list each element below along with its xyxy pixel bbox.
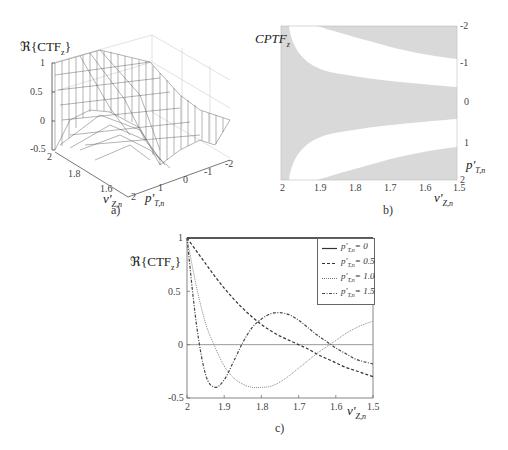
legend-item: p'T,n= 1.5 (322, 286, 374, 300)
legend-item: p'T,n= 0 (322, 241, 374, 255)
panel-c-caption: c) (275, 421, 284, 436)
panel-c-ytick: 0.5 (168, 286, 181, 297)
panel-c-xtick: 1.7 (293, 401, 306, 412)
panel-c-xtick: 2 (185, 401, 190, 412)
legend-item: p'T,n= 1.0 (322, 271, 374, 285)
panel-c-xtick: 1.5 (367, 401, 380, 412)
chart-legend: p'T,n= 0 p'T,n= 0.5 p'T,n= 1.0 p'T,n= 1.… (317, 238, 375, 305)
panel-c-xtick: 1.6 (330, 401, 343, 412)
panel-c-ytick: 0 (178, 339, 183, 350)
panel-c-ytick: -0.5 (168, 392, 184, 403)
line-chart (0, 0, 508, 450)
panel-c-xtick: 1.8 (256, 401, 269, 412)
panel-c-xlabel: v'Z,n (347, 403, 366, 421)
panel-c-ylabel: ℜ{CTFz} (130, 254, 181, 272)
legend-item: p'T,n= 0.5 (322, 256, 374, 270)
panel-c-ytick: 1 (178, 232, 183, 243)
panel-c-xtick: 1.9 (218, 401, 231, 412)
